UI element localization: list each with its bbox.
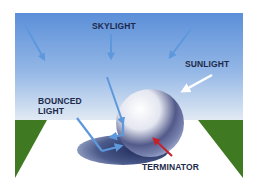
bounced-light-label-line1: BOUNCED bbox=[38, 96, 82, 106]
bounced-light-label: BOUNCED LIGHT bbox=[38, 96, 82, 116]
sphere bbox=[116, 89, 184, 157]
skylight-label: SKYLIGHT bbox=[92, 21, 136, 31]
bounced-light-label-line2: LIGHT bbox=[38, 106, 82, 116]
sunlight-label: SUNLIGHT bbox=[185, 59, 229, 69]
terminator-label: TERMINATOR bbox=[142, 162, 199, 172]
